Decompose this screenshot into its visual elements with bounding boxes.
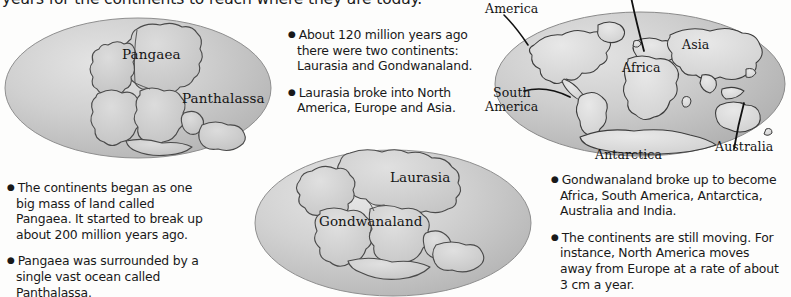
globe-modern-continents: America Asia Africa South America Antarc… (494, 11, 786, 157)
paragraph-text: The continents began as one big mass of … (16, 180, 203, 242)
text-block-center-top: ●About 120 million years ago there were … (288, 27, 484, 116)
label-north-america: America (485, 1, 538, 16)
label-pangaea: Pangaea (122, 46, 181, 62)
leader-line-north-america (504, 15, 528, 45)
page-root: years for the continents to reach where … (0, 0, 791, 297)
paragraph-text: About 120 million years ago there were t… (297, 27, 472, 73)
label-australia: Australia (715, 139, 773, 154)
bullet-paragraph: ●Pangaea was surrounded by a single vast… (7, 253, 203, 297)
bullet-paragraph: ●Laurasia broke into North America, Euro… (288, 85, 484, 116)
label-panthalassa: Panthalassa (182, 90, 265, 106)
landmass-pangaea-southeast (199, 122, 246, 150)
bullet-icon: ● (551, 232, 562, 242)
bullet-icon: ● (288, 29, 299, 39)
paragraph-text: The continents are still moving. For ins… (560, 230, 779, 292)
landmass-madagascar (682, 97, 691, 108)
label-asia: Asia (682, 37, 709, 52)
globe-laurasia-gondwanaland: Laurasia Gondwanaland (254, 149, 532, 297)
globe-pangaea: Pangaea Panthalassa (4, 17, 272, 159)
label-south-america-line1: South (493, 85, 531, 100)
landmass-new-zealand (764, 129, 772, 136)
bullet-paragraph: ●About 120 million years ago there were … (288, 27, 484, 74)
landmass-greenland (598, 22, 625, 43)
landmass-gondwana-australia (433, 242, 484, 272)
label-africa: Africa (622, 60, 660, 75)
text-block-bottom-right: ●Gondwanaland broke up to become Africa,… (551, 172, 783, 292)
label-antarctica: Antarctica (595, 147, 662, 162)
bullet-paragraph: ●Gondwanaland broke up to become Africa,… (551, 172, 783, 219)
bullet-paragraph: ●The continents began as one big mass of… (7, 180, 203, 242)
paragraph-text: Gondwanaland broke up to become Africa, … (560, 172, 776, 218)
paragraph-text: Laurasia broke into North America, Europ… (297, 85, 456, 116)
bullet-paragraph: ●The continents are still moving. For in… (551, 230, 783, 292)
bullet-icon: ● (551, 174, 562, 184)
label-laurasia: Laurasia (390, 169, 450, 185)
page-heading: years for the continents to reach where … (2, 0, 422, 8)
landmass-uk (633, 40, 641, 47)
text-block-bottom-left: ●The continents began as one big mass of… (7, 180, 203, 297)
bullet-icon: ● (7, 255, 18, 265)
paragraph-text: Pangaea was surrounded by a single vast … (16, 253, 199, 297)
bullet-icon: ● (7, 182, 18, 192)
label-gondwanaland: Gondwanaland (319, 213, 423, 229)
bullet-icon: ● (288, 87, 299, 97)
label-south-america-line2: America (485, 99, 538, 114)
